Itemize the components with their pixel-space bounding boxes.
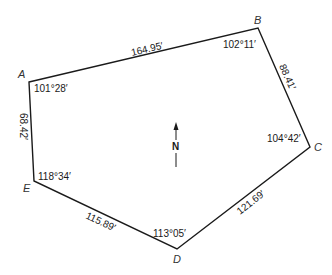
vertex-label-e: E bbox=[23, 182, 31, 194]
vertex-label-d: D bbox=[173, 253, 181, 265]
arrowhead-icon bbox=[174, 122, 179, 130]
vertex-label-b: B bbox=[254, 14, 261, 26]
angle-b: 102°11′ bbox=[223, 39, 256, 50]
vertex-label-c: C bbox=[314, 141, 322, 153]
north-label: N bbox=[172, 141, 179, 152]
traverse-diagram: A B C D E 101°28′ 102°11′ 104°42′ 113°05… bbox=[0, 0, 332, 275]
vertex-label-a: A bbox=[17, 68, 25, 80]
north-arrow: N bbox=[172, 122, 179, 167]
side-length-ea: 68.42′ bbox=[18, 113, 29, 140]
side-length-bc: 88.41′ bbox=[277, 62, 298, 91]
angle-e: 118°34′ bbox=[38, 171, 71, 182]
angle-d: 113°05′ bbox=[153, 228, 186, 239]
angle-a: 101°28′ bbox=[34, 83, 68, 94]
angle-c: 104°42′ bbox=[267, 133, 301, 144]
side-length-ab: 164.95′ bbox=[130, 40, 164, 58]
